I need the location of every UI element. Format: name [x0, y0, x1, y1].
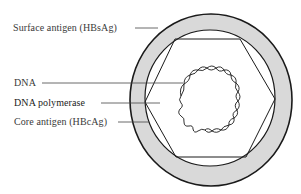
- label-dna: DNA: [14, 77, 36, 89]
- label-core-antigen: Core antigen (HBcAg): [14, 116, 107, 128]
- label-surface-antigen: Surface antigen (HBsAg): [13, 22, 117, 34]
- diagram-canvas: Surface antigen (HBsAg) DNA DNA polymera…: [0, 0, 301, 194]
- label-dna-polymerase: DNA polymerase: [14, 97, 85, 109]
- surface-antigen-envelope: [130, 14, 292, 186]
